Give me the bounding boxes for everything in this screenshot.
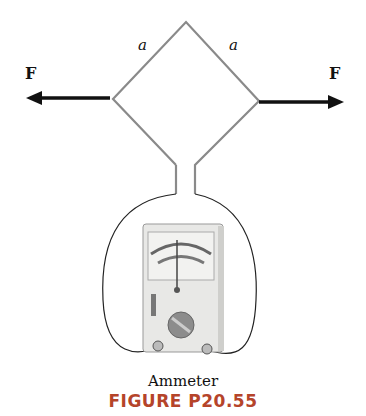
force-label-right: F [329, 64, 340, 83]
force-arrow-right [259, 95, 344, 109]
ammeter-label: Ammeter [0, 372, 366, 390]
figure-caption: FIGURE P20.55 [0, 391, 366, 411]
ammeter [143, 224, 224, 354]
force-label-left: F [25, 64, 36, 83]
force-arrow-left [26, 91, 110, 105]
side-label-left: a [138, 36, 147, 54]
side-label-right: a [229, 36, 238, 54]
figure-diagram [0, 0, 366, 416]
